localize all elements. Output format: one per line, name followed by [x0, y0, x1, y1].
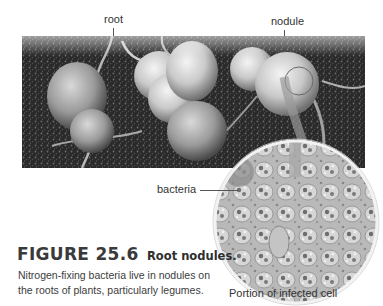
figure-title: FIGURE 25.6 Root nodules. [17, 246, 237, 263]
bacteria-label: bacteria [157, 184, 196, 195]
figure-description-line: the roots of plants, particularly legume… [18, 283, 218, 298]
root-label: root [104, 14, 123, 25]
figure-description-line: Nitrogen-fixing bacteria live in nodules… [18, 268, 218, 283]
bacteria-leader-line [200, 190, 238, 191]
micrograph-caption: Portion of infected cell [229, 287, 337, 299]
nodule-label: nodule [271, 16, 304, 27]
figure-description: Nitrogen-fixing bacteria live in nodules… [18, 268, 218, 298]
figure-name: Root nodules. [147, 249, 237, 263]
infected-cell-micrograph [209, 137, 383, 287]
figure-number: FIGURE 25.6 [17, 244, 139, 264]
